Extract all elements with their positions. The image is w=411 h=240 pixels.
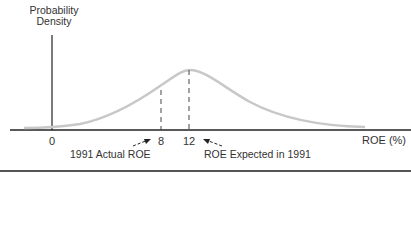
x-tick-8: 8 xyxy=(158,135,164,147)
annotation-expected-roe: ROE Expected in 1991 xyxy=(204,148,311,160)
annotation-actual-roe: 1991 Actual ROE xyxy=(70,148,151,160)
bottom-divider xyxy=(0,170,411,172)
density-curve xyxy=(24,70,365,128)
x-tick-0: 0 xyxy=(49,135,55,147)
x-tick-12: 12 xyxy=(183,135,195,147)
x-axis-label: ROE (%) xyxy=(362,134,406,146)
arrow-expected-icon xyxy=(203,139,222,146)
arrow-actual-icon xyxy=(133,139,151,146)
